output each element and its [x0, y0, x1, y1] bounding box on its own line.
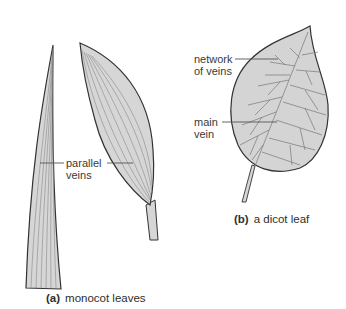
- caption-monocot: (a)monocot leaves: [46, 292, 146, 304]
- parallel-veins-label: parallel veins: [66, 157, 101, 181]
- monocot-grass-blade: [26, 45, 61, 289]
- caption-text: monocot leaves: [65, 292, 146, 304]
- label-line: network: [194, 53, 233, 65]
- caption-dicot: (b)a dicot leaf: [234, 213, 309, 225]
- label-line: parallel: [66, 157, 101, 169]
- dicot-leaf: [231, 26, 328, 205]
- network-of-veins-label: network of veins: [194, 53, 233, 77]
- label-line: vein: [194, 128, 218, 140]
- monocot-broad-leaf: [80, 43, 158, 240]
- label-line: main: [194, 116, 218, 128]
- caption-tag: (b): [234, 213, 249, 225]
- caption-text: a dicot leaf: [254, 213, 310, 225]
- caption-tag: (a): [46, 292, 60, 304]
- main-vein-label: main vein: [194, 116, 218, 140]
- label-line: of veins: [194, 65, 233, 77]
- leaf-diagram-art: [0, 0, 346, 309]
- label-line: veins: [66, 169, 101, 181]
